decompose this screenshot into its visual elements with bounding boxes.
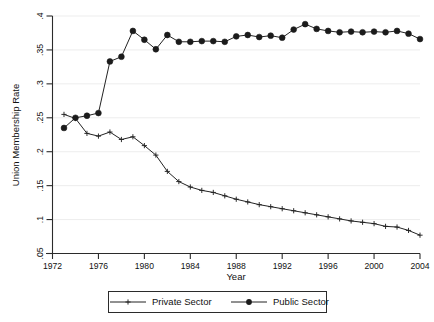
legend-circle-marker-icon <box>246 299 252 305</box>
y-tick-label-1: .1 <box>35 216 45 223</box>
data-point-marker <box>394 28 400 34</box>
data-point-marker <box>96 110 102 116</box>
legend-label: Private Sector <box>152 296 212 307</box>
x-axis-title: Year <box>226 271 245 282</box>
data-point-marker <box>233 33 239 39</box>
x-tick-label-3: 1984 <box>181 261 200 271</box>
x-tick-label-6: 1996 <box>319 261 338 271</box>
data-point-marker <box>314 26 320 32</box>
data-point-marker <box>337 29 343 35</box>
data-point-marker <box>245 32 251 38</box>
data-point-marker <box>406 31 412 37</box>
data-point-marker <box>383 29 389 35</box>
x-tick-label-2: 1980 <box>135 261 154 271</box>
data-point-marker <box>141 37 147 43</box>
data-point-marker <box>256 34 262 40</box>
legend-label: Public Sector <box>273 296 329 307</box>
data-point-marker <box>73 115 79 121</box>
data-point-marker <box>291 27 297 33</box>
data-point-marker <box>325 28 331 34</box>
x-tick-label-7: 2000 <box>365 261 384 271</box>
data-point-marker <box>84 113 90 119</box>
data-point-marker <box>348 29 354 35</box>
data-point-marker <box>107 59 113 65</box>
data-point-marker <box>360 29 366 35</box>
y-tick-label-2: .15 <box>35 179 45 191</box>
data-point-marker <box>268 33 274 39</box>
data-point-marker <box>130 28 136 34</box>
y-tick-label-0: .05 <box>35 247 45 259</box>
y-tick-label-7: .4 <box>35 12 45 19</box>
data-point-marker <box>210 38 216 44</box>
union-membership-rate-line-chart: .05.1.15.2.25.3.35.4 1972197619801984198… <box>0 0 434 322</box>
data-point-marker <box>279 35 285 41</box>
x-tick-label-1: 1976 <box>89 261 108 271</box>
data-point-marker <box>153 46 159 52</box>
x-tick-label-0: 1972 <box>43 261 62 271</box>
y-tick-label-6: .35 <box>35 44 45 56</box>
data-point-marker <box>119 54 125 60</box>
data-point-marker <box>222 39 228 45</box>
chart-background <box>0 0 434 322</box>
y-tick-label-4: .25 <box>35 112 45 124</box>
y-tick-label-3: .2 <box>35 148 45 155</box>
data-point-marker <box>176 39 182 45</box>
y-tick-label-5: .3 <box>35 80 45 87</box>
data-point-marker <box>187 39 193 45</box>
chart-figure: .05.1.15.2.25.3.35.4 1972197619801984198… <box>0 0 434 322</box>
x-tick-label-4: 1988 <box>227 261 246 271</box>
data-point-marker <box>371 29 377 35</box>
x-tick-label-5: 1992 <box>273 261 292 271</box>
data-point-marker <box>199 38 205 44</box>
data-point-marker <box>302 21 308 27</box>
data-point-marker <box>417 36 423 42</box>
data-point-marker <box>164 32 170 38</box>
x-tick-label-8: 2004 <box>410 261 429 271</box>
y-axis-title: Union Membership Rate <box>10 84 21 186</box>
data-point-marker <box>61 125 67 131</box>
x-axis-tick-labels: 197219761980198419881992199620002004 <box>43 261 430 271</box>
